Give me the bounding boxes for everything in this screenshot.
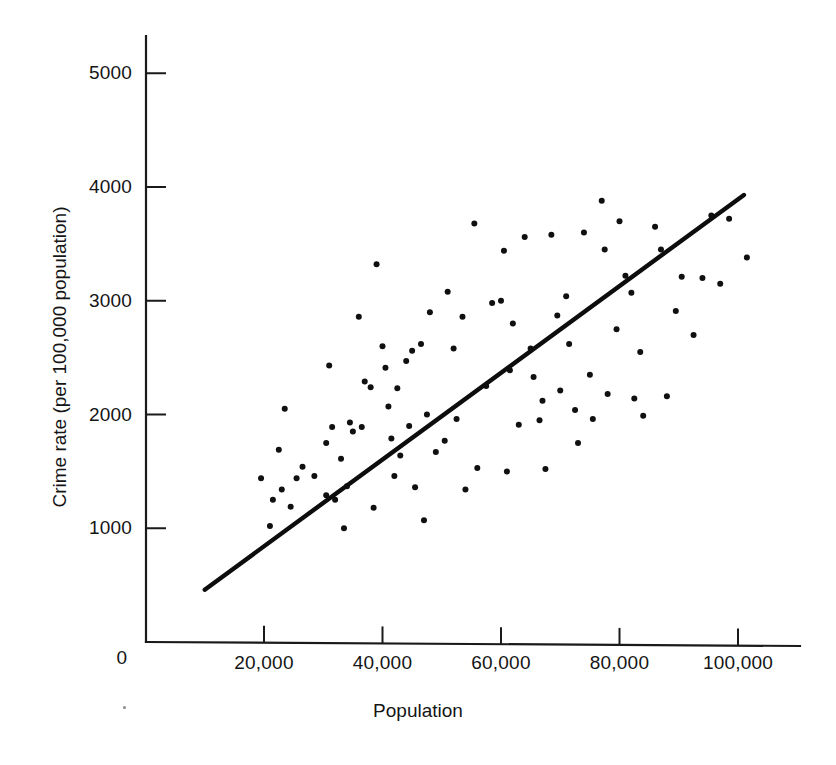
- data-point: [347, 419, 353, 425]
- data-point: [421, 517, 427, 523]
- data-point: [341, 525, 347, 531]
- x-axis-tick-label: 20,000: [234, 652, 293, 674]
- data-point: [522, 234, 528, 240]
- data-point: [454, 416, 460, 422]
- data-point: [566, 341, 572, 347]
- data-point: [617, 218, 623, 224]
- data-point: [397, 452, 403, 458]
- data-point: [679, 274, 685, 280]
- data-point: [599, 198, 605, 204]
- data-point: [368, 384, 374, 390]
- data-point: [282, 406, 288, 412]
- data-point: [445, 289, 451, 295]
- data-point: [501, 248, 507, 254]
- data-point: [388, 435, 394, 441]
- data-point: [691, 332, 697, 338]
- data-point: [459, 314, 465, 320]
- data-point: [329, 424, 335, 430]
- data-point: [276, 447, 282, 453]
- x-axis-tick-label: 100,000: [703, 652, 773, 674]
- data-point: [572, 407, 578, 413]
- data-point: [652, 224, 658, 230]
- data-point: [581, 230, 587, 236]
- data-point: [726, 216, 732, 222]
- data-point: [267, 523, 273, 529]
- data-point: [614, 326, 620, 332]
- data-point: [418, 341, 424, 347]
- data-point: [403, 358, 409, 364]
- data-point: [394, 385, 400, 391]
- data-point: [717, 281, 723, 287]
- data-point: [391, 473, 397, 479]
- data-point: [362, 379, 368, 385]
- data-point: [406, 423, 412, 429]
- x-axis-tick-label: 0: [117, 647, 128, 669]
- scan-artifact-speck: [123, 706, 126, 709]
- data-point: [279, 487, 285, 493]
- scatter-plot-figure: 10002000300040005000 020,00040,00060,000…: [0, 0, 836, 765]
- data-point: [380, 343, 386, 349]
- data-point: [557, 388, 563, 394]
- data-point: [744, 255, 750, 261]
- data-point: [516, 422, 522, 428]
- data-point: [563, 293, 569, 299]
- x-axis-tick-label: 80,000: [590, 652, 649, 674]
- data-point: [412, 484, 418, 490]
- regression-line: [205, 195, 744, 590]
- data-point: [587, 372, 593, 378]
- data-point: [371, 505, 377, 511]
- data-point: [462, 487, 468, 493]
- data-point: [605, 391, 611, 397]
- x-axis-title: Population: [0, 700, 836, 722]
- data-point: [359, 424, 365, 430]
- data-point: [427, 309, 433, 315]
- data-point: [442, 438, 448, 444]
- data-point: [311, 473, 317, 479]
- data-point: [374, 261, 380, 267]
- data-point: [504, 468, 510, 474]
- data-point: [590, 416, 596, 422]
- data-point: [539, 398, 545, 404]
- data-point: [409, 348, 415, 354]
- data-point: [471, 220, 477, 226]
- data-point: [300, 464, 306, 470]
- data-point: [548, 232, 554, 238]
- x-axis-tick-label: 60,000: [471, 652, 530, 674]
- data-point: [474, 465, 480, 471]
- data-point: [673, 308, 679, 314]
- data-point: [258, 475, 264, 481]
- data-point: [323, 440, 329, 446]
- data-point: [602, 247, 608, 253]
- data-points-group: [258, 198, 750, 532]
- data-point: [537, 417, 543, 423]
- data-point: [385, 404, 391, 410]
- data-point: [699, 275, 705, 281]
- data-point: [270, 497, 276, 503]
- data-point: [554, 313, 560, 319]
- data-point: [637, 349, 643, 355]
- data-point: [350, 429, 356, 435]
- data-point: [356, 314, 362, 320]
- data-point: [382, 365, 388, 371]
- x-axis-tick-label: 40,000: [353, 652, 412, 674]
- data-point: [338, 456, 344, 462]
- data-point: [542, 466, 548, 472]
- y-axis-title: Crime rate (per 100,000 population): [49, 147, 71, 567]
- data-point: [288, 504, 294, 510]
- data-point: [424, 412, 430, 418]
- data-point: [631, 396, 637, 402]
- data-point: [498, 298, 504, 304]
- data-point: [294, 475, 300, 481]
- data-point: [628, 290, 634, 296]
- data-point: [326, 363, 332, 369]
- data-point: [575, 440, 581, 446]
- data-point: [510, 321, 516, 327]
- data-point: [433, 449, 439, 455]
- data-point: [451, 346, 457, 352]
- data-point: [489, 300, 495, 306]
- data-point: [664, 393, 670, 399]
- data-point: [531, 374, 537, 380]
- y-axis-tick-label: 5000: [40, 62, 132, 84]
- y-axis-ticks: [146, 73, 166, 528]
- x-axis-line: [146, 642, 800, 646]
